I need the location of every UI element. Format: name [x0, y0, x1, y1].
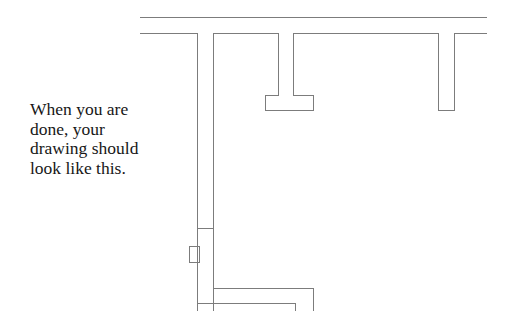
right-column-outline: [438, 33, 454, 110]
drawing-canvas: [0, 0, 511, 330]
tee-column-outline: [265, 33, 313, 110]
bottom-wall-outer-line: [213, 288, 313, 311]
tutorial-page: When you are done, your drawing should l…: [0, 0, 511, 330]
bottom-wall-inner-line: [197, 303, 295, 311]
